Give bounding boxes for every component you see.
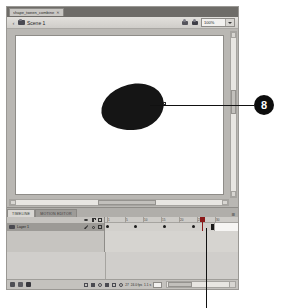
black-teardrop-shape[interactable] [99,81,166,133]
close-icon[interactable]: ✕ [56,9,59,16]
play-icon[interactable] [97,282,102,287]
callout-8: 8 [254,95,274,115]
edit-bar-controls: 100% [181,18,235,27]
pencil-icon[interactable] [84,225,88,229]
back-arrow-icon[interactable]: ‹ [10,19,17,27]
timeline-scroll-right-arrow[interactable] [229,282,235,287]
frame-track[interactable] [105,223,238,231]
layer-row[interactable]: Layer 1 [7,223,104,231]
outline-square-icon[interactable] [98,225,102,229]
timeline-column-divider [105,252,106,279]
elapsed-label: 1.1 s [144,282,151,288]
onion-skin-icon[interactable] [153,282,162,288]
callout-8-leader-line [150,105,254,106]
scroll-left-arrow[interactable] [10,200,16,205]
scene-icon [18,19,25,26]
edit-scene-icon[interactable] [181,19,189,27]
tab-motion-editor[interactable]: MOTION EDITOR [35,209,76,217]
keyframe[interactable] [192,225,195,228]
outline-square-icon[interactable] [98,218,102,222]
previous-frame-icon[interactable] [90,282,95,287]
current-frame-label: 27 [125,282,129,288]
empty-frames[interactable] [215,223,238,231]
timeline-panel: TIMELINE MOTION EDITOR ☰ [7,207,238,289]
vertical-scroll-thumb[interactable] [231,90,236,114]
end-frame[interactable] [211,224,214,230]
scene-label[interactable]: Scene 1 [27,19,45,27]
keyframe[interactable] [134,225,137,228]
keyframe[interactable] [163,225,166,228]
eye-icon[interactable] [84,218,88,222]
next-frame-icon[interactable] [104,282,109,287]
frame-area[interactable]: 1 5 10 15 20 25 30 [105,217,238,252]
edit-symbol-icon[interactable] [191,19,199,27]
stage-horizontal-scrollbar[interactable] [9,199,229,206]
playback-controls: 27 24.0 fps 1.1 s [83,281,238,288]
timeline-body: Layer 1 1 5 [7,217,238,252]
document-tab[interactable]: shape_tween_combine ✕ [9,8,64,16]
new-folder-icon[interactable] [18,282,23,287]
layer-header-column: Layer 1 [7,217,105,252]
chevron-down-icon[interactable] [225,19,234,26]
tab-timeline-label: TIMELINE [12,212,30,216]
layer-row-controls [84,225,102,229]
stage-vertical-scrollbar[interactable] [230,31,237,198]
callout-8-label: 8 [261,99,267,111]
timeline-status-bar: 27 24.0 fps 1.1 s [7,279,238,289]
layer-icon [9,224,15,230]
loop-icon[interactable] [118,282,123,287]
visibility-dot-icon[interactable] [91,225,95,229]
tab-motion-editor-label: MOTION EDITOR [40,212,71,216]
lock-icon[interactable] [91,218,95,222]
timeline-tab-bar: TIMELINE MOTION EDITOR ☰ [7,208,238,217]
timeline-horizontal-scrollbar[interactable] [166,281,236,288]
timeline-playhead-leader-line [206,228,207,308]
scroll-down-arrow[interactable] [231,191,236,197]
flash-authoring-window: shape_tween_combine ✕ ‹ Scene 1 100% [6,6,239,290]
stage-canvas[interactable] [15,35,224,195]
stage-work-area [7,29,238,207]
layer-name-label[interactable]: Layer 1 [17,224,29,230]
keyframe[interactable] [106,225,109,228]
document-tab-strip: shape_tween_combine ✕ [7,7,238,17]
screenshot-root: shape_tween_combine ✕ ‹ Scene 1 100% [0,0,286,308]
scroll-up-arrow[interactable] [231,32,236,38]
playhead[interactable] [202,217,203,231]
new-layer-icon[interactable] [10,282,15,287]
document-tab-label: shape_tween_combine [13,9,54,16]
edit-bar: ‹ Scene 1 100% [7,17,238,29]
tab-timeline[interactable]: TIMELINE [7,209,35,217]
zoom-value: 100% [202,19,214,26]
tween-span[interactable] [105,223,215,231]
timeline-scroll-thumb[interactable] [168,282,192,287]
trash-icon[interactable] [26,282,31,287]
horizontal-scroll-thumb[interactable] [98,200,156,205]
layer-column-icons [84,218,102,222]
last-frame-icon[interactable] [111,282,116,287]
fps-label[interactable]: 24.0 fps [131,282,142,288]
timeline-empty-area [7,252,238,279]
first-frame-icon[interactable] [83,282,88,287]
scroll-right-arrow[interactable] [222,200,228,205]
zoom-select[interactable]: 100% [201,18,235,27]
